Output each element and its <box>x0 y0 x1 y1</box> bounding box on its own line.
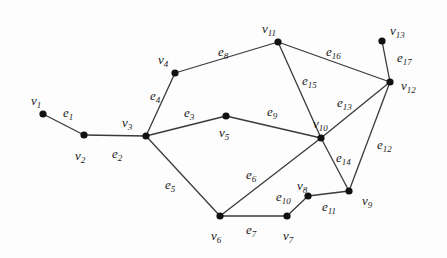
node-label-subscript: 5 <box>225 132 230 142</box>
node-label-subscript: 7 <box>289 235 294 245</box>
node-label-v9: v9 <box>362 194 372 210</box>
node-label-subscript: 13 <box>396 30 405 40</box>
edge-label-e16: e16 <box>326 45 341 61</box>
edge-label-subscript: 12 <box>383 144 392 154</box>
edge-layer <box>43 41 390 216</box>
edge-label-subscript: 14 <box>342 157 351 167</box>
edge-label-subscript: 16 <box>332 51 341 61</box>
edge-label-subscript: 11 <box>328 206 336 216</box>
edge-label-subscript: 9 <box>273 111 278 121</box>
edge-e6 <box>220 138 321 216</box>
edge-label-subscript: 10 <box>282 196 291 206</box>
node-label-v13: v13 <box>390 24 405 40</box>
edge-label-e10: e10 <box>276 190 291 206</box>
edge-label-e9: e9 <box>267 105 277 121</box>
node-label-v3: v3 <box>122 116 132 132</box>
node-v6 <box>216 212 223 219</box>
node-label-subscript: 10 <box>319 123 328 133</box>
edge-label-e5: e5 <box>165 178 175 194</box>
edge-label-subscript: 1 <box>69 112 74 122</box>
edge-label-subscript: 6 <box>252 174 257 184</box>
edge-label-subscript: 5 <box>171 184 176 194</box>
node-v13 <box>378 37 385 44</box>
node-label-v1: v1 <box>31 94 41 110</box>
node-v12 <box>386 78 393 85</box>
edge-label-e12: e12 <box>377 138 392 154</box>
node-label-subscript: 4 <box>164 59 169 69</box>
node-label-v4: v4 <box>158 53 168 69</box>
node-v4 <box>171 69 178 76</box>
edge-label-e13: e13 <box>337 96 352 112</box>
node-v9 <box>345 187 352 194</box>
edge-label-e3: e3 <box>184 106 194 122</box>
node-label-subscript: 3 <box>128 122 133 132</box>
node-label-v12: v12 <box>401 79 416 95</box>
edge-e2 <box>84 135 146 136</box>
edge-label-subscript: 7 <box>252 229 257 239</box>
node-label-v2: v2 <box>75 149 85 165</box>
node-label-subscript: 12 <box>407 85 416 95</box>
node-label-v6: v6 <box>211 229 221 245</box>
edge-label-subscript: 15 <box>308 80 317 90</box>
node-v11 <box>274 38 281 45</box>
edge-label-e8: e8 <box>218 45 228 61</box>
edge-label-e11: e11 <box>322 200 336 216</box>
node-label-v7: v7 <box>283 229 293 245</box>
node-label-subscript: 11 <box>268 28 276 38</box>
edge-label-subscript: 4 <box>156 95 161 105</box>
node-label-v5: v5 <box>219 126 229 142</box>
node-v3 <box>142 132 149 139</box>
node-label-subscript: 1 <box>37 100 42 110</box>
edge-label-e2: e2 <box>112 147 122 163</box>
edge-label-subscript: 17 <box>403 57 412 67</box>
node-label-subscript: 9 <box>368 200 373 210</box>
node-v7 <box>283 212 290 219</box>
edge-label-subscript: 2 <box>118 153 123 163</box>
node-label-subscript: 8 <box>303 185 308 195</box>
node-v10 <box>317 134 324 141</box>
edge-label-subscript: 3 <box>190 112 195 122</box>
edge-label-e7: e7 <box>246 223 256 239</box>
node-label-v11: v11 <box>262 22 276 38</box>
edge-label-subscript: 13 <box>343 102 352 112</box>
edge-e11 <box>308 191 349 196</box>
node-v1 <box>39 110 46 117</box>
node-v2 <box>80 131 87 138</box>
node-v5 <box>222 112 229 119</box>
edge-label-e14: e14 <box>336 151 351 167</box>
edge-label-e17: e17 <box>397 51 412 67</box>
node-label-v10: v10 <box>313 117 328 133</box>
edge-label-subscript: 8 <box>224 51 229 61</box>
edge-label-e6: e6 <box>246 168 256 184</box>
graph-diagram: e1e2e3e4e5e6e7e8e9e10e11e12e13e14e15e16e… <box>0 0 447 258</box>
edge-e17 <box>382 41 390 82</box>
node-label-subscript: 6 <box>217 235 222 245</box>
edge-label-e1: e1 <box>63 106 73 122</box>
edge-label-e4: e4 <box>150 89 160 105</box>
edge-e5 <box>146 136 220 216</box>
edge-label-e15: e15 <box>302 74 317 90</box>
node-label-v8: v8 <box>297 179 307 195</box>
node-label-subscript: 2 <box>81 155 86 165</box>
